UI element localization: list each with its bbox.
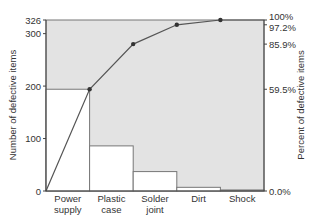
tick-label: 97.2%: [269, 22, 296, 33]
left-axis-ticks: 0100200300326: [25, 15, 46, 197]
tick-label: 59.5%: [269, 84, 296, 95]
x-axis-labels: PowersupplyPlasticcaseSolderjointDirtSho…: [54, 193, 256, 215]
category-label: Dirt: [191, 193, 206, 204]
category-label: case: [101, 204, 121, 215]
pareto-chart: 0100200300326 0.0%59.5%85.9%97.2%100% Po…: [0, 0, 320, 224]
category-label: supply: [54, 204, 82, 215]
bar: [133, 172, 177, 191]
tick-label: 100%: [269, 11, 294, 22]
category-label: Power: [54, 193, 81, 204]
tick-label: 85.9%: [269, 39, 296, 50]
tick-label: 0: [36, 186, 41, 197]
category-label: Shock: [229, 193, 256, 204]
data-point: [175, 23, 179, 27]
data-point: [218, 18, 222, 22]
tick-label: 326: [25, 15, 41, 26]
data-point: [87, 87, 91, 91]
tick-label: 100: [25, 133, 41, 144]
tick-label: 200: [25, 81, 41, 92]
tick-label: 0.0%: [269, 186, 291, 197]
right-axis-ticks: 0.0%59.5%85.9%97.2%100%: [264, 11, 296, 197]
right-axis-title: Percent of defective items: [295, 50, 306, 160]
category-label: Plastic: [97, 193, 125, 204]
left-axis-title: Number of defective items: [7, 50, 18, 161]
tick-label: 300: [25, 28, 41, 39]
bar: [90, 146, 134, 191]
category-label: joint: [145, 204, 164, 215]
category-label: Solder: [141, 193, 168, 204]
data-point: [131, 42, 135, 46]
